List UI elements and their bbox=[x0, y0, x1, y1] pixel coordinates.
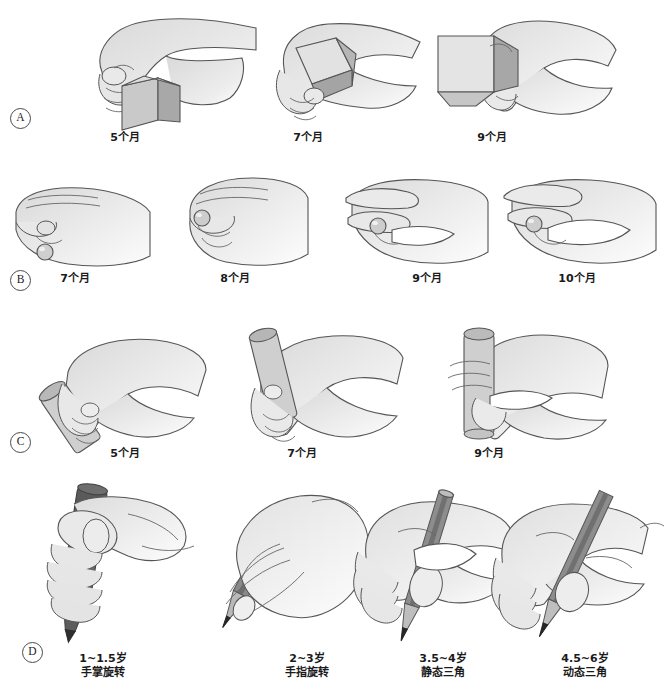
caption-d-1-desc: 手掌旋转 bbox=[48, 666, 158, 680]
row-b-pellet-grasp: B 7个月 bbox=[0, 160, 660, 320]
illustration-pellet-7-months bbox=[2, 180, 152, 275]
caption-d-2-age: 2~3岁 bbox=[289, 652, 325, 665]
illustration-cylinder-9-months bbox=[420, 322, 610, 452]
caption-d-3-desc: 静态三角 bbox=[388, 666, 498, 680]
caption-d-2-desc: 手指旋转 bbox=[252, 666, 362, 680]
caption-d-3-age: 3.5~4岁 bbox=[419, 652, 466, 665]
row-d-pencil-grasp: D bbox=[0, 480, 660, 697]
row-c-cylinder-grasp: C bbox=[0, 320, 660, 480]
caption-d-2: 2~3岁 手指旋转 bbox=[252, 652, 362, 679]
illustration-pellet-8-months bbox=[168, 172, 308, 277]
caption-b-3: 9个月 bbox=[392, 272, 462, 286]
caption-b-1: 7个月 bbox=[40, 272, 110, 286]
caption-a-3: 9个月 bbox=[452, 131, 532, 145]
caption-d-3: 3.5~4岁 静态三角 bbox=[388, 652, 498, 679]
illustration-pellet-10-months bbox=[488, 174, 658, 274]
caption-a-1: 5个月 bbox=[85, 131, 165, 145]
illustration-pencil-dynamic-tripod bbox=[480, 488, 665, 648]
illustration-cylinder-5-months bbox=[28, 326, 208, 456]
caption-a-2: 7个月 bbox=[268, 131, 348, 145]
caption-c-2: 7个月 bbox=[265, 447, 339, 461]
illustration-pencil-palmar-rotation bbox=[18, 484, 208, 649]
caption-d-4-age: 4.5~6岁 bbox=[561, 652, 608, 665]
row-a-cube-grasp: A bbox=[0, 0, 660, 160]
caption-b-2: 8个月 bbox=[200, 272, 270, 286]
illustration-pellet-9-months bbox=[330, 174, 490, 274]
caption-d-4-desc: 动态三角 bbox=[530, 666, 640, 680]
illustration-cylinder-7-months bbox=[225, 322, 405, 457]
caption-d-1: 1~1.5岁 手掌旋转 bbox=[48, 652, 158, 679]
caption-b-4: 10个月 bbox=[540, 272, 614, 286]
panel-marker-a: A bbox=[10, 108, 31, 129]
illustration-cube-9-months bbox=[420, 10, 620, 132]
caption-d-1-age: 1~1.5岁 bbox=[79, 652, 126, 665]
caption-c-1: 5个月 bbox=[88, 447, 162, 461]
illustration-cube-7-months bbox=[240, 14, 430, 134]
caption-c-3: 9个月 bbox=[452, 447, 526, 461]
caption-d-4: 4.5~6岁 动态三角 bbox=[530, 652, 640, 679]
